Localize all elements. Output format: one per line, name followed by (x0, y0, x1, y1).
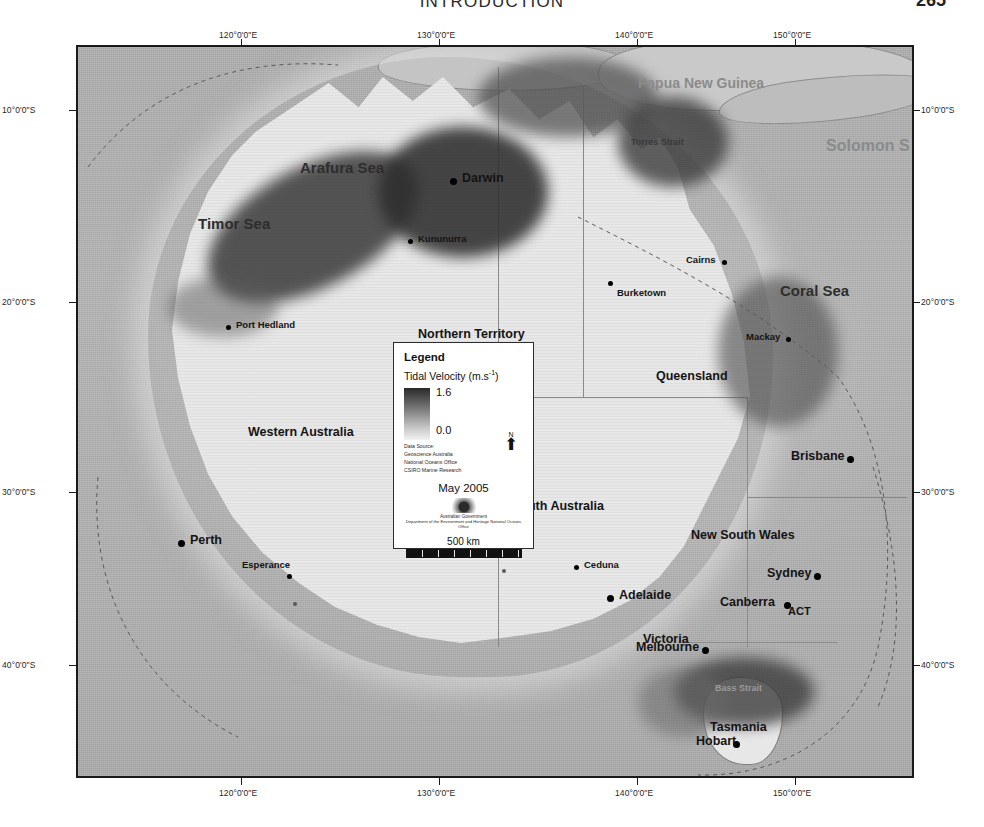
label-tasmania: Tasmania (710, 720, 767, 734)
longitude-label-top-130: 130°0'0"E (417, 30, 455, 40)
tick-left-20 (69, 302, 76, 303)
label-queensland: Queensland (656, 369, 728, 383)
latitude-label-left-20: 20°0'0"S (2, 297, 35, 307)
legend-ramp-min-label: 0.0 (436, 424, 451, 436)
longitude-label-top-150: 150°0'0"E (773, 30, 811, 40)
tick-right-10 (913, 110, 920, 111)
city-dot-melbourne[interactable] (702, 647, 709, 654)
city-label-port-hedland: Port Hedland (236, 319, 295, 330)
longitude-label-bottom-150: 150°0'0"E (773, 788, 811, 798)
scale-bar (406, 549, 522, 558)
tick-left-10 (69, 110, 76, 111)
latitude-label-right-20: 20°0'0"S (921, 297, 954, 307)
city-dot-ceduna[interactable] (574, 565, 579, 570)
city-label-mackay: Mackay (746, 331, 780, 342)
city-dot-esperance[interactable] (287, 574, 292, 579)
latitude-label-left-10: 10°0'0"S (2, 105, 35, 115)
city-label-perth: Perth (190, 533, 222, 547)
city-dot-adelaide[interactable] (607, 595, 614, 602)
tick-right-40 (913, 665, 920, 666)
tick-bottom-120 (241, 778, 242, 785)
city-label-sydney: Sydney (767, 566, 811, 580)
source-line-3: National Oceans Office (404, 458, 523, 466)
city-label-burketown: Burketown (617, 287, 666, 298)
government-department: Department of the Environment and Herita… (404, 519, 523, 530)
city-dot-burketown[interactable] (608, 281, 613, 286)
tick-right-30 (913, 492, 920, 493)
border-qld-nsw (747, 497, 907, 498)
longitude-label-bottom-130: 130°0'0"E (417, 788, 455, 798)
latitude-label-right-10: 10°0'0"S (921, 105, 954, 115)
city-label-ceduna: Ceduna (584, 559, 619, 570)
label-bass-strait: Bass Strait (715, 683, 762, 693)
city-dot-canberra[interactable] (784, 602, 791, 609)
city-label-brisbane: Brisbane (791, 449, 845, 463)
label-solomon-sea: Solomon S (826, 137, 910, 155)
label-torres-strait: Torres Strait (631, 137, 684, 147)
border-sa-nsw (747, 497, 748, 647)
scale-bar-label: 500 km (404, 536, 523, 547)
tick-right-20 (913, 302, 920, 303)
legend-date: May 2005 (404, 482, 523, 494)
city-dot-perth[interactable] (178, 540, 185, 547)
city-label-kununurra: Kununurra (418, 233, 467, 244)
city-dot-port-hedland[interactable] (226, 325, 231, 330)
border-nt-sa (498, 397, 748, 398)
city-label-adelaide: Adelaide (619, 588, 671, 602)
city-dot-sydney[interactable] (814, 573, 821, 580)
legend-color-ramp (404, 388, 430, 440)
latitude-label-right-40: 40°0'0"S (921, 660, 954, 670)
city-dot-darwin[interactable] (450, 178, 457, 185)
australian-government-crest-icon (449, 498, 479, 513)
border-nsw-vic (678, 642, 838, 643)
north-arrow-icon: N ⬆ (503, 431, 519, 452)
page-number: 265 (916, 0, 946, 11)
city-label-canberra: Canberra (720, 595, 775, 609)
tick-left-30 (69, 492, 76, 493)
latitude-label-left-40: 40°0'0"S (2, 660, 35, 670)
city-label-darwin: Darwin (462, 171, 504, 185)
latitude-label-right-30: 30°0'0"S (921, 487, 954, 497)
longitude-label-top-120: 120°0'0"E (219, 30, 257, 40)
city-label-cairns: Cairns (686, 254, 716, 265)
longitude-label-top-140: 140°0'0"E (615, 30, 653, 40)
city-dot-minor-sw (293, 602, 297, 606)
city-dot-kununurra[interactable] (408, 239, 413, 244)
legend-subtitle: Tidal Velocity (m.s-1) (404, 369, 523, 382)
city-label-hobart: Hobart (696, 734, 736, 748)
legend-title: Legend (404, 351, 523, 363)
city-dot-cairns[interactable] (722, 260, 727, 265)
running-head: INTRODUCTION (0, 0, 984, 12)
latitude-label-left-30: 30°0'0"S (2, 487, 35, 497)
city-dot-minor-nullarbor (502, 569, 506, 573)
legend-subtitle-text: Tidal Velocity (m.s (404, 370, 489, 382)
city-label-melbourne: Melbourne (636, 640, 699, 654)
tick-left-40 (69, 665, 76, 666)
map-canvas[interactable]: Papua New Guinea Solomon S Australia Ara… (76, 45, 914, 778)
label-new-south-wales: New South Wales (691, 528, 795, 542)
map-figure: 120°0'0"E 130°0'0"E 140°0'0"E 150°0'0"E … (0, 22, 984, 822)
label-coral-sea: Coral Sea (780, 282, 849, 299)
tick-bottom-150 (795, 778, 796, 785)
legend-subtitle-close: ) (495, 370, 499, 382)
longitude-label-bottom-140: 140°0'0"E (615, 788, 653, 798)
city-dot-mackay[interactable] (786, 337, 791, 342)
label-arafura-sea: Arafura Sea (300, 159, 384, 176)
source-line-4: CSIRO Marine Research (404, 466, 523, 474)
page-header: INTRODUCTION 265 (0, 0, 984, 18)
label-timor-sea: Timor Sea (198, 215, 270, 232)
tick-bottom-140 (637, 778, 638, 785)
tick-bottom-130 (439, 778, 440, 785)
north-arrow-glyph: ⬆ (503, 438, 519, 452)
legend-ramp-max-label: 1.6 (436, 386, 451, 398)
label-northern-territory: Northern Territory (418, 327, 525, 341)
city-dot-brisbane[interactable] (847, 456, 854, 463)
city-label-esperance: Esperance (242, 559, 290, 570)
longitude-label-bottom-120: 120°0'0"E (219, 788, 257, 798)
label-western-australia: Western Australia (248, 425, 354, 439)
legend-panel[interactable]: Legend Tidal Velocity (m.s-1) 1.6 0.0 Da… (393, 342, 534, 549)
label-act: ACT (788, 605, 811, 617)
tidal-hotspot-broad-sound (718, 277, 838, 427)
label-papua-new-guinea: Papua New Guinea (638, 75, 764, 91)
